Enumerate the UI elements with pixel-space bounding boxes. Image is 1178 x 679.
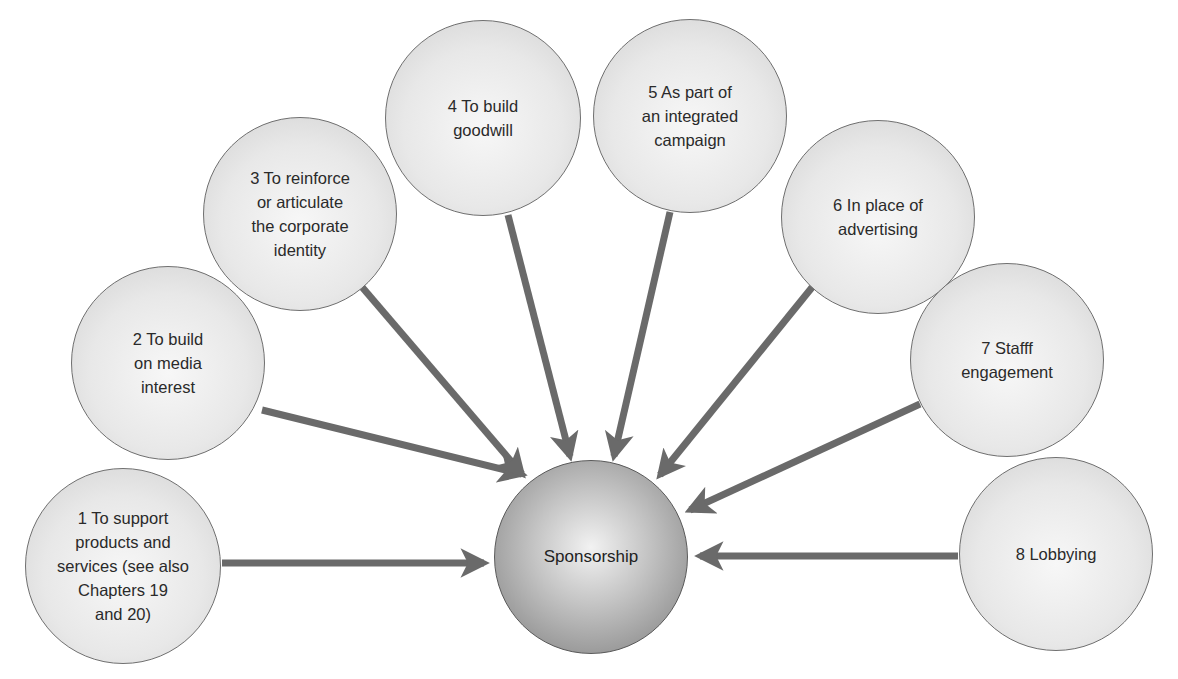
node-label: 2 To build on media interest xyxy=(125,327,211,399)
arrow-3-to-sponsorship xyxy=(362,287,522,474)
node-sponsorship-hub: Sponsorship xyxy=(494,460,688,654)
node-label: 4 To build goodwill xyxy=(440,94,526,142)
node-label: 1 To support products and services (see … xyxy=(49,506,197,626)
node-staff-engagement: 7 Stafff engagement xyxy=(910,263,1104,457)
arrow-4-to-sponsorship xyxy=(508,215,570,456)
arrow-2-to-sponsorship xyxy=(262,410,522,474)
node-media-interest: 2 To build on media interest xyxy=(71,266,265,460)
node-label: 8 Lobbying xyxy=(1008,542,1105,566)
hub-label: Sponsorship xyxy=(536,545,647,569)
node-support-products: 1 To support products and services (see … xyxy=(25,468,221,664)
node-corporate-identity: 3 To reinforce or articulate the corpora… xyxy=(203,117,397,311)
arrow-6-to-sponsorship xyxy=(660,280,818,475)
node-label: 6 In place of advertising xyxy=(825,193,931,241)
node-integrated-campaign: 5 As part of an integrated campaign xyxy=(593,19,787,213)
node-label: 3 To reinforce or articulate the corpora… xyxy=(242,166,358,262)
arrow-5-to-sponsorship xyxy=(614,212,670,456)
node-label: 7 Stafff engagement xyxy=(953,336,1061,384)
node-goodwill: 4 To build goodwill xyxy=(385,20,581,216)
arrow-7-to-sponsorship xyxy=(690,404,920,510)
node-label: 5 As part of an integrated campaign xyxy=(634,80,746,152)
node-lobbying: 8 Lobbying xyxy=(959,457,1153,651)
